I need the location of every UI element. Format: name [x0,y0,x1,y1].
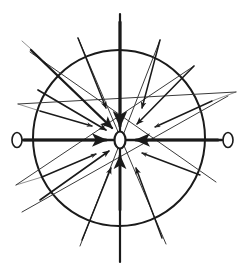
arrow-nw-3 [40,111,92,126]
center-oval [115,132,126,149]
guide-chord-sw-ne [16,66,194,185]
arrow-sw-2 [40,151,109,200]
figure-container [0,0,250,277]
arrow-nne [142,40,160,108]
arrow-sse [136,168,162,238]
arrow-nnw [78,38,106,108]
arrow-ssw [82,168,111,240]
left-end-oval [12,133,22,148]
right-end-oval [223,133,233,148]
arrow-se-1 [142,153,200,175]
guide-chord-ne-sw [22,96,228,212]
arrow-nw-2 [38,90,106,130]
faint-tail-nw [22,41,31,49]
faint-tail-sw [16,177,42,185]
radial-convergence-diagram [0,0,250,277]
